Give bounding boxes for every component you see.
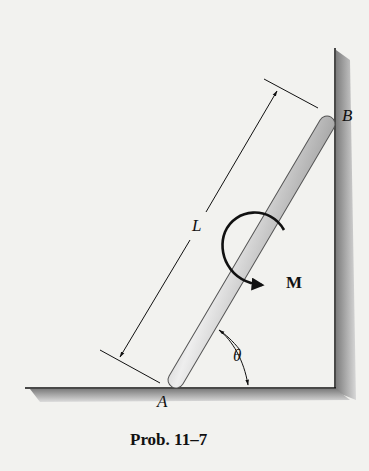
length-label: L [191,216,201,235]
wall [335,48,356,400]
moment-label: M [286,273,302,292]
rod-ab [176,124,327,380]
point-a-label: A [156,392,168,411]
figure-caption: Prob. 11–7 [130,430,208,449]
angle-label: θ [233,346,241,365]
floor [25,388,350,402]
diagram: L M θ A B Prob. 11–7 [0,0,369,471]
point-b-label: B [342,106,353,125]
